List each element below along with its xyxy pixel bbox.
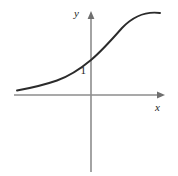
x-axis-label: x bbox=[154, 101, 160, 113]
coordinate-plot-svg: y x 1 bbox=[0, 0, 178, 176]
y-intercept-tick-label: 1 bbox=[81, 64, 87, 76]
y-axis-label: y bbox=[73, 7, 79, 19]
x-axis-arrowhead-icon bbox=[157, 92, 165, 99]
exponential-function-figure: y x 1 bbox=[0, 0, 178, 176]
y-axis-arrowhead-icon bbox=[88, 11, 95, 19]
exponential-curve bbox=[17, 13, 160, 91]
